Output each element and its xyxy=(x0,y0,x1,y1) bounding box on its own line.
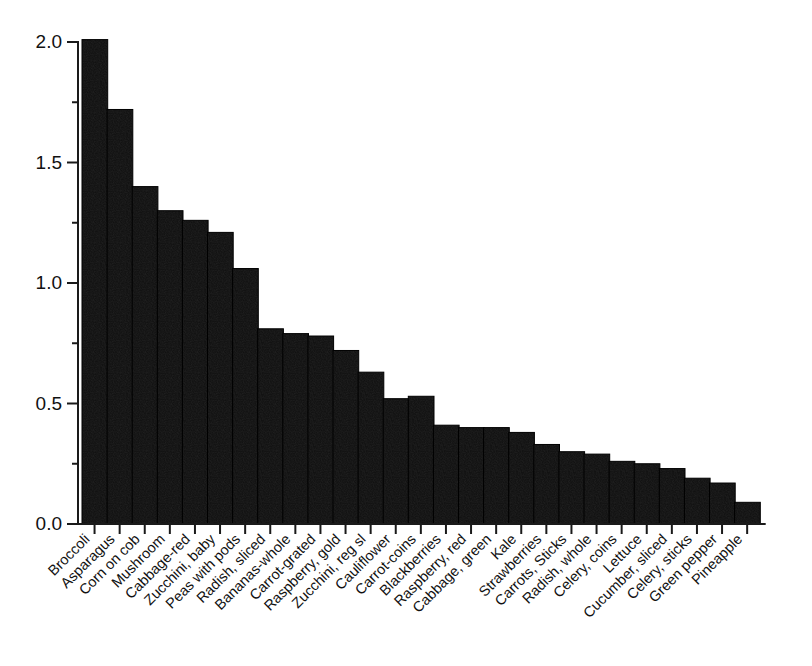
y-tick-label: 0.0 xyxy=(36,513,62,534)
bar xyxy=(408,396,434,524)
bar xyxy=(132,187,158,524)
bar xyxy=(358,372,384,524)
bar xyxy=(484,428,510,524)
bar xyxy=(182,220,208,524)
bar xyxy=(735,502,761,524)
bar xyxy=(283,334,309,524)
y-tick-label: 2.0 xyxy=(36,31,62,52)
bar-chart: 0.00.51.01.52.0 BroccoliAsparagusCorn on… xyxy=(0,0,812,666)
bar xyxy=(684,478,710,524)
bar xyxy=(383,399,409,524)
bar xyxy=(509,432,535,524)
y-tick-label: 0.5 xyxy=(36,393,62,414)
bar xyxy=(258,329,284,524)
bar xyxy=(710,483,736,524)
bar xyxy=(659,469,685,524)
bar xyxy=(433,425,459,524)
bar xyxy=(157,211,183,524)
bar xyxy=(559,452,585,524)
y-tick-label: 1.0 xyxy=(36,272,62,293)
bar xyxy=(208,232,234,524)
bar xyxy=(333,350,359,524)
figure-canvas: 0.00.51.01.52.0 BroccoliAsparagusCorn on… xyxy=(0,0,812,666)
bar xyxy=(634,464,660,524)
bar xyxy=(609,461,635,524)
bar xyxy=(107,109,133,524)
bar xyxy=(534,444,560,524)
bar xyxy=(233,269,259,524)
bar xyxy=(459,428,485,524)
bar xyxy=(308,336,334,524)
bar xyxy=(584,454,610,524)
bar xyxy=(82,40,108,524)
y-tick-label: 1.5 xyxy=(36,152,62,173)
